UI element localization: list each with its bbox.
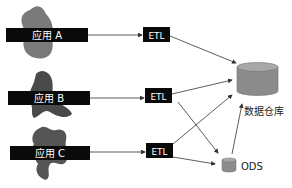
etl-box-2: ETL xyxy=(145,88,172,103)
ods-database-icon xyxy=(222,158,236,172)
arrow-etl3-to-ods xyxy=(173,157,215,164)
ods-label: ODS xyxy=(241,161,263,172)
data-warehouse-label: 数据仓库 xyxy=(244,105,284,117)
data-flow-diagram: 应用 A 应用 B 应用 C ETL ETL ETL 数据仓库 ODS xyxy=(0,0,292,188)
etl-box-1: ETL xyxy=(143,27,170,42)
source-c-label: 应用 C xyxy=(35,147,65,159)
source-b-label: 应用 B xyxy=(34,92,64,104)
etl-box-3: ETL xyxy=(146,143,173,158)
arrow-etl1-to-dw xyxy=(170,36,236,63)
source-app-a: 应用 A xyxy=(6,28,88,42)
etl-1-label: ETL xyxy=(148,31,164,41)
source-app-b: 应用 B xyxy=(8,91,90,105)
arrow-etl2-to-ods xyxy=(178,102,218,153)
arrow-etl2-to-dw xyxy=(172,80,232,94)
source-app-c: 应用 C xyxy=(10,146,90,160)
data-warehouse-database-icon xyxy=(237,63,278,96)
etl-3-label: ETL xyxy=(151,147,167,157)
arrow-ods-to-dw xyxy=(232,104,242,154)
etl-2-label: ETL xyxy=(150,92,166,102)
source-a-label: 应用 A xyxy=(32,29,62,41)
arrow-etl3-to-dw xyxy=(173,95,232,144)
